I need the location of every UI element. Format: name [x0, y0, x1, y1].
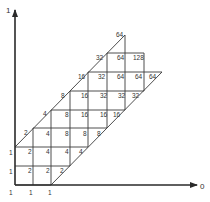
cell-value-label: 16: [100, 111, 108, 118]
grid-diagonal-line: [51, 72, 162, 185]
cell-value-label: 4: [65, 148, 69, 155]
cell-value-label: 1: [9, 189, 13, 196]
cell-value-label: 64: [117, 54, 125, 61]
cell-value-label: 8: [65, 130, 69, 137]
cell-value-label: 64: [135, 73, 143, 80]
cell-value-label: 2: [28, 167, 32, 174]
cell-value-label: 2: [60, 167, 64, 174]
cell-value-label: 2: [46, 167, 50, 174]
lattice-diagram: 1 0 111122212444248884816161681632323216…: [0, 0, 210, 202]
cell-value-label: 16: [113, 111, 121, 118]
cell-value-label: 4: [43, 110, 47, 117]
cell-value-label: 4: [46, 130, 50, 137]
cell-value-label: 16: [81, 111, 89, 118]
cell-value-label: 32: [118, 92, 126, 99]
y-axis-label: 1: [6, 6, 11, 15]
x-axis-label: 0: [200, 182, 205, 191]
cell-value-label: 8: [61, 92, 65, 99]
cell-value-label: 32: [132, 92, 140, 99]
cell-value-label: 8: [97, 130, 101, 137]
cell-value-label: 32: [100, 92, 108, 99]
cell-value-label: 2: [24, 129, 28, 136]
cell-value-label: 64: [149, 73, 157, 80]
cell-value-label: 32: [98, 73, 106, 80]
cell-value-label: 16: [81, 92, 89, 99]
cell-value-label: 8: [65, 111, 69, 118]
cell-value-label: 1: [29, 189, 33, 196]
cell-value-label: 64: [116, 31, 124, 38]
cell-value-label: 4: [79, 148, 83, 155]
cell-value-label: 128: [133, 54, 144, 61]
cell-value-label: 32: [96, 54, 104, 61]
cell-value-label: 2: [28, 148, 32, 155]
cell-value-label: 16: [78, 73, 86, 80]
cell-value-label: 64: [117, 73, 125, 80]
cell-value-label: 4: [46, 148, 50, 155]
cell-value-label: 1: [9, 168, 13, 175]
cell-labels: 1111222124442488848161616816323232163264…: [9, 31, 157, 196]
cell-value-label: 8: [83, 130, 87, 137]
cell-value-label: 1: [9, 149, 13, 156]
cell-value-label: 1: [48, 189, 52, 196]
